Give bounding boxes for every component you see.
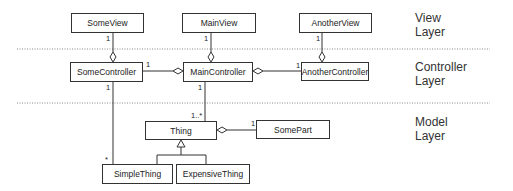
aggregation-diamond-icon: [110, 52, 116, 62]
layer-label-view: View Layer: [415, 11, 445, 39]
layer-label-controller: Controller Layer: [415, 60, 467, 88]
aggregation-diamond-icon: [217, 127, 227, 133]
aggregation-diamond-icon: [319, 52, 325, 62]
class-main-view: MainView: [182, 13, 256, 33]
layer-label-line: Controller: [415, 60, 467, 74]
multiplicity-label: 1: [204, 35, 208, 43]
layer-label-line: Layer: [415, 74, 467, 88]
class-some-part: SomePart: [256, 120, 330, 139]
multiplicity-label: *: [105, 156, 108, 164]
class-some-view: SomeView: [71, 13, 144, 33]
multiplicity-label: 1: [106, 35, 110, 43]
layer-label-model: Model Layer: [415, 115, 448, 143]
multiplicity-label: 1: [316, 35, 320, 43]
aggregation-diamond-icon: [208, 52, 214, 62]
multiplicity-label: 1: [146, 61, 150, 69]
aggregation-diamond-icon: [253, 68, 263, 74]
multiplicity-label: 1: [198, 84, 202, 92]
class-simple-thing: SimpleThing: [102, 164, 173, 184]
inheritance-triangle-icon: [177, 140, 185, 147]
layer-label-line: View: [415, 11, 445, 25]
multiplicity-label: 1: [106, 84, 110, 92]
layer-label-line: Model: [415, 115, 448, 129]
multiplicity-label: 1..*: [191, 112, 202, 120]
class-some-controller: SomeController: [70, 62, 143, 82]
class-thing: Thing: [145, 121, 217, 140]
class-main-controller: MainController: [183, 62, 253, 82]
layer-label-line: Layer: [415, 129, 448, 143]
multiplicity-label: 1: [251, 120, 255, 128]
multiplicity-label: 1: [296, 62, 300, 70]
class-another-view: AnotherView: [299, 13, 372, 33]
layer-label-line: Layer: [415, 25, 445, 39]
class-expensive-thing: ExpensiveThing: [176, 164, 250, 184]
class-another-controller: AnotherController: [301, 62, 369, 81]
aggregation-diamond-icon: [173, 68, 183, 74]
